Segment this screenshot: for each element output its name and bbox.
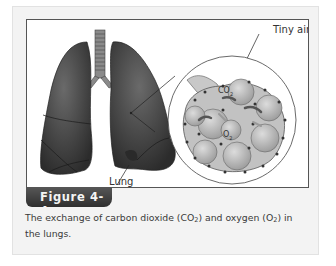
o2-label: O2 — [223, 130, 232, 141]
figure-number-badge: Figure 4-4 — [26, 188, 112, 207]
alveoli-magnified-view — [168, 56, 296, 184]
air-sac-label: Tiny air sac — [273, 24, 309, 35]
co2-label: CO2 — [218, 86, 233, 97]
co2-text: CO — [218, 86, 230, 95]
left-lung-icon — [41, 42, 93, 174]
figure-caption: The exchange of carbon dioxide (CO2) and… — [25, 211, 310, 240]
caption-text-2: ) and oxygen (O — [198, 212, 273, 223]
co2-subscript: 2 — [230, 91, 233, 97]
o2-subscript: 2 — [229, 135, 232, 141]
lung-label: Lung — [109, 176, 133, 187]
right-lung-icon — [110, 42, 175, 171]
figure-illustration-frame: Tiny air sac Lung CO2 O2 — [26, 19, 309, 188]
caption-text-1: The exchange of carbon dioxide (CO — [25, 212, 194, 223]
lungs-illustration — [27, 20, 309, 188]
